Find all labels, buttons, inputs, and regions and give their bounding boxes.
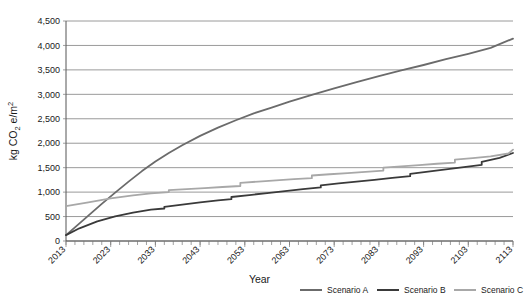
y-tick-label: 1,000 (37, 187, 60, 197)
x-tick-label: 2093 (404, 244, 425, 265)
x-tick-label: 2043 (180, 244, 201, 265)
plot-area (66, 21, 513, 241)
x-tick-label: 2103 (448, 244, 469, 265)
y-tick-label: 2,000 (37, 138, 60, 148)
y-tick-label: 2,500 (37, 114, 60, 124)
x-tick-label: 2053 (225, 244, 246, 265)
y-tick-label: 4,000 (37, 41, 60, 51)
x-tick-label: 2033 (136, 244, 157, 265)
y-tick-label: 500 (45, 212, 60, 222)
y-tick-label: 3,500 (37, 65, 60, 75)
chart-container: 05001,0001,5002,0002,5003,0003,5004,0004… (0, 0, 526, 308)
y-axis-ticks: 05001,0001,5002,0002,5003,0003,5004,0004… (37, 16, 66, 246)
x-tick-label: 2083 (359, 244, 380, 265)
legend-label: Scenario C (481, 285, 523, 295)
legend-label: Scenario B (404, 285, 446, 295)
legend: Scenario AScenario BScenario C (300, 285, 523, 295)
x-tick-label: 2073 (314, 244, 335, 265)
y-tick-label: 4,500 (37, 16, 60, 26)
y-axis-title: kg CO2 e/m2 (6, 102, 22, 161)
legend-label: Scenario A (327, 285, 368, 295)
x-tick-label: 2023 (91, 244, 112, 265)
x-tick-label: 2013 (46, 244, 67, 265)
x-tick-label: 2063 (270, 244, 291, 265)
x-axis-title: Year (249, 273, 271, 285)
y-tick-label: 1,500 (37, 163, 60, 173)
line-chart: 05001,0001,5002,0002,5003,0003,5004,0004… (0, 0, 526, 308)
x-tick-label: 2113 (494, 244, 515, 265)
y-tick-label: 3,000 (37, 90, 60, 100)
